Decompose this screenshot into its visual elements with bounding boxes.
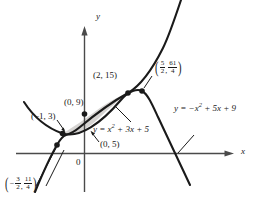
paren-open-icon: ( (5, 177, 9, 191)
point-label-vertex-up: ( − 3 2 , 11 4 ) (4, 176, 38, 192)
y-axis-label: y (96, 12, 100, 21)
paren-close-icon: ) (34, 177, 38, 191)
equation-down-suffix: + 5x + 9 (202, 103, 236, 113)
point-dot-intersection-2-15 (125, 90, 131, 96)
x-axis-arrowhead (225, 150, 235, 156)
point-label-vertex-down: ( 5 2 , 61 4 ) (154, 60, 183, 76)
equation-label-down-parabola: y = −x2 + 5x + 9 (174, 102, 236, 113)
x-axis-label: x (241, 147, 245, 156)
point-dot-vertex-up (54, 142, 60, 148)
y-axis-arrowhead (81, 26, 87, 36)
point-label-0-5: (0, 5) (100, 140, 120, 149)
origin-label: 0 (76, 158, 81, 167)
paren-close-icon: ) (178, 61, 182, 75)
leader-line-vertex-up-b (46, 150, 64, 186)
equation-down-prefix: y = −x (174, 103, 199, 113)
point-label-neg1-3: (−1, 3) (31, 112, 56, 121)
leader-line-eq-up (116, 107, 131, 122)
point-dot-y-intercept-0-9 (82, 111, 88, 117)
equation-label-up-parabola: y = x2 + 3x + 5 (93, 123, 149, 134)
leader-line-eq-down (178, 135, 194, 153)
paren-open-icon: ( (155, 61, 159, 75)
point-label-2-15: (2, 15) (93, 71, 117, 80)
equation-up-prefix: y = x (93, 124, 112, 134)
equation-up-suffix: + 3x + 5 (115, 124, 149, 134)
point-label-0-9: (0, 9) (64, 98, 84, 107)
fraction-61-over-4: 61 4 (168, 60, 177, 76)
point-dot-vertex-down (139, 88, 145, 94)
graph-figure: y x 0 (2, 15) (0, 9) (0, 5) (−1, 3) ( 5 … (0, 0, 264, 206)
fraction-11-over-4: 11 4 (24, 176, 33, 192)
